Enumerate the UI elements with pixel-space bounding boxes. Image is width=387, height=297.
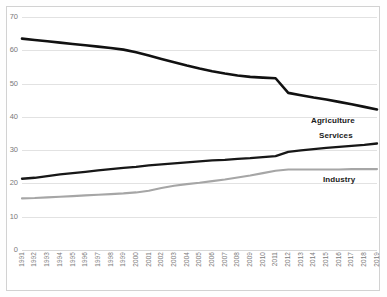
y-axis-tick-label: 50 bbox=[10, 80, 18, 88]
x-axis-tick-label: 2012 bbox=[285, 252, 291, 267]
x-axis-tick-label: 1991 bbox=[19, 252, 25, 267]
x-axis-tick-label: 1999 bbox=[120, 252, 126, 267]
y-axis-tick-label: 0 bbox=[14, 246, 18, 254]
x-axis-tick-label: 2015 bbox=[323, 252, 329, 267]
x-axis-tick-label: 2013 bbox=[298, 252, 304, 267]
x-axis-tick-label: 2010 bbox=[260, 252, 266, 267]
x-axis-tick-label: 2000 bbox=[133, 252, 139, 267]
x-axis-tick-label: 1998 bbox=[108, 252, 114, 267]
x-axis-tick-label: 1996 bbox=[82, 252, 88, 267]
series-label-services: Services bbox=[319, 131, 353, 140]
x-axis-tick-label: 2017 bbox=[348, 252, 354, 267]
series-line-agriculture bbox=[22, 39, 377, 110]
series-label-industry: Industry bbox=[323, 175, 355, 184]
x-axis-tick-label: 2009 bbox=[247, 252, 253, 267]
x-axis-tick-label: 2019 bbox=[374, 252, 380, 267]
x-axis-tick-label: 2007 bbox=[222, 252, 228, 267]
y-axis-tick-label: 70 bbox=[10, 13, 18, 21]
x-axis-tick-label: 2006 bbox=[209, 252, 215, 267]
x-axis-tick-label: 2001 bbox=[146, 252, 152, 267]
x-axis-tick-label: 2008 bbox=[234, 252, 240, 267]
series-line-services bbox=[22, 143, 377, 178]
x-axis-tick-label: 2002 bbox=[158, 252, 164, 267]
x-axis-tick-label: 2018 bbox=[361, 252, 367, 267]
x-axis-tick-label: 1997 bbox=[95, 252, 101, 267]
x-axis-tick-label: 1993 bbox=[44, 252, 50, 267]
x-axis-tick-label: 2014 bbox=[310, 252, 316, 267]
x-axis-tick-label: 1992 bbox=[31, 252, 37, 267]
x-axis-tick-label: 2005 bbox=[196, 252, 202, 267]
y-axis-tick-label: 20 bbox=[10, 180, 18, 188]
line-chart: 010203040506070 199119921993199419951996… bbox=[0, 0, 387, 297]
x-axis-tick-label: 2016 bbox=[336, 252, 342, 267]
x-axis-tick-label: 1994 bbox=[57, 252, 63, 267]
series-label-agriculture: Agriculture bbox=[311, 116, 355, 125]
x-axis-tick-label: 2004 bbox=[184, 252, 190, 267]
x-axis-labels: 1991199219931994199519961997199819992000… bbox=[22, 252, 377, 296]
x-axis-tick-label: 2003 bbox=[171, 252, 177, 267]
y-axis-tick-label: 40 bbox=[10, 113, 18, 121]
x-axis-tick-label: 2011 bbox=[272, 252, 278, 266]
x-axis-tick-label: 1995 bbox=[70, 252, 76, 267]
y-axis-tick-label: 10 bbox=[10, 213, 18, 221]
y-axis-tick-label: 30 bbox=[10, 146, 18, 154]
y-axis-tick-label: 60 bbox=[10, 47, 18, 55]
